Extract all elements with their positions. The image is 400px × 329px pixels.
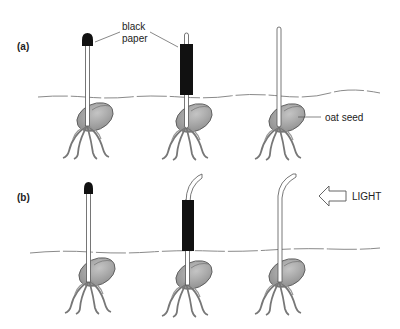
light-label: LIGHT	[352, 191, 381, 202]
oat-seed-label: oat seed	[325, 112, 363, 123]
black-paper-label-line1: black	[122, 21, 146, 32]
black-cap	[84, 182, 93, 194]
seedling-b1-tip-covered	[65, 182, 120, 314]
panel-a-label: (a)	[17, 41, 29, 52]
soil-line-b	[30, 248, 380, 253]
leader-line-cap	[95, 32, 120, 42]
black-cap	[82, 33, 93, 46]
light-arrow-icon	[319, 186, 346, 206]
black-paper-label-line2: paper	[122, 33, 148, 44]
seedling-b2-shaft-covered-bending	[162, 174, 217, 317]
leader-line-sleeve	[150, 32, 178, 47]
black-paper-sleeve	[182, 200, 194, 251]
phototropism-diagram: (a) (b) black paper oat seed	[0, 0, 400, 329]
black-paper-sleeve	[180, 44, 193, 95]
seedling-b3-uncovered-bending	[255, 174, 310, 315]
panel-b-label: (b)	[17, 192, 30, 203]
seedling-a3-uncovered	[255, 27, 310, 160]
